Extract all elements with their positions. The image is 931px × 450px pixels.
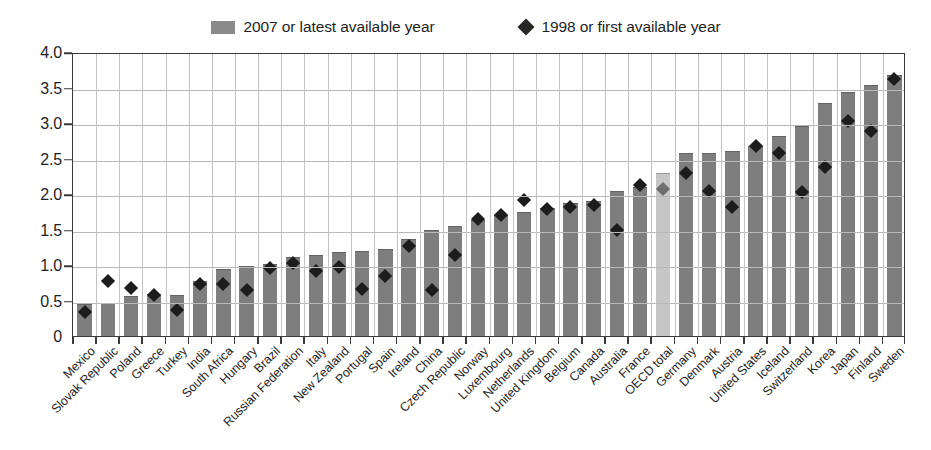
gridline-vertical xyxy=(258,54,259,336)
y-axis-tick-mark xyxy=(64,88,72,90)
gridline-vertical xyxy=(605,54,606,336)
gridline-vertical xyxy=(813,54,814,336)
bar-luxembourg xyxy=(494,215,508,336)
gridline-vertical xyxy=(837,54,838,336)
gridline-vertical xyxy=(721,54,722,336)
gridline-vertical xyxy=(513,54,514,336)
y-axis-tick-mark xyxy=(64,123,72,125)
x-axis-tick-mark xyxy=(604,337,606,344)
gridline-horizontal xyxy=(73,303,904,304)
x-axis-tick-mark xyxy=(257,337,259,344)
gridline-horizontal xyxy=(73,267,904,268)
bar-austria xyxy=(725,151,739,336)
gridline-vertical xyxy=(651,54,652,336)
gridline-vertical xyxy=(397,54,398,336)
gridline-vertical xyxy=(119,54,120,336)
x-axis-tick-mark xyxy=(165,337,167,344)
gridline-vertical xyxy=(490,54,491,336)
x-axis-tick-mark xyxy=(118,337,120,344)
bar-czech-republic xyxy=(448,226,462,336)
bar-hungary xyxy=(239,266,253,336)
x-axis-tick-mark xyxy=(188,337,190,344)
bar-japan xyxy=(841,92,855,336)
gridline-vertical xyxy=(96,54,97,336)
y-axis-tick-mark xyxy=(64,230,72,232)
gridline-vertical xyxy=(767,54,768,336)
x-axis-tick-mark xyxy=(442,337,444,344)
bar-slovak-republic xyxy=(101,303,115,336)
gridline-vertical xyxy=(883,54,884,336)
bar-germany xyxy=(679,153,693,336)
gridline-vertical xyxy=(189,54,190,336)
y-axis-tick-label: 2.5 xyxy=(40,151,62,169)
x-axis-tick-mark xyxy=(650,337,652,344)
x-axis-tick-mark xyxy=(396,337,398,344)
bar-iceland xyxy=(772,136,786,336)
x-axis-tick-mark xyxy=(280,337,282,344)
x-axis-tick-mark xyxy=(766,337,768,344)
bar-spain xyxy=(378,249,392,336)
plot-area xyxy=(72,53,905,337)
y-axis-tick-label: 0 xyxy=(53,328,62,346)
bar-finland xyxy=(864,85,878,336)
x-axis-tick-mark xyxy=(674,337,676,344)
gridline-vertical xyxy=(166,54,167,336)
x-axis-tick-mark xyxy=(72,337,74,344)
legend-entry-diamonds: 1998 or first available year xyxy=(520,18,720,36)
x-axis-tick-mark xyxy=(743,337,745,344)
gridline-vertical xyxy=(235,54,236,336)
x-axis-tick-mark xyxy=(836,337,838,344)
x-axis-tick-mark xyxy=(373,337,375,344)
x-axis-tick-mark xyxy=(211,337,213,344)
chart-legend: 2007 or latest available year 1998 or fi… xyxy=(0,14,931,40)
diamond-icon xyxy=(518,19,535,36)
y-axis-tick-label: 3.5 xyxy=(40,80,62,98)
gridline-vertical xyxy=(304,54,305,336)
y-axis-tick-label: 2.0 xyxy=(40,186,62,204)
data-series-layer xyxy=(73,54,904,336)
x-axis-tick-mark xyxy=(535,337,537,344)
diamond-marker-poland xyxy=(124,281,138,295)
bar-oecd-total xyxy=(656,173,670,336)
gridline-vertical xyxy=(536,54,537,336)
gridline-vertical xyxy=(351,54,352,336)
gridline-vertical xyxy=(744,54,745,336)
bar-swatch-icon xyxy=(211,21,235,34)
gridline-vertical xyxy=(628,54,629,336)
gridline-vertical xyxy=(466,54,467,336)
y-axis-tick-label: 1.0 xyxy=(40,257,62,275)
bar-denmark xyxy=(702,153,716,336)
y-axis-tick-label: 1.5 xyxy=(40,222,62,240)
bar-australia xyxy=(610,191,624,336)
gridline-vertical xyxy=(212,54,213,336)
gridline-horizontal xyxy=(73,232,904,233)
y-axis-tick-mark xyxy=(64,194,72,196)
legend-label-bars: 2007 or latest available year xyxy=(244,18,435,36)
diamond-marker-netherlands xyxy=(517,192,531,206)
gridline-vertical xyxy=(142,54,143,336)
gridline-vertical xyxy=(860,54,861,336)
x-axis-tick-mark xyxy=(234,337,236,344)
y-axis-tick-label: 4.0 xyxy=(40,44,62,62)
x-axis-tick-mark xyxy=(720,337,722,344)
x-axis-tick-mark xyxy=(859,337,861,344)
gridline-vertical xyxy=(790,54,791,336)
x-axis-labels: MexicoSlovak RepublicPolandGreeceTurkeyI… xyxy=(72,344,905,450)
gridline-vertical xyxy=(328,54,329,336)
bar-france xyxy=(633,187,647,336)
x-axis-tick-mark xyxy=(512,337,514,344)
x-axis-tick-mark xyxy=(697,337,699,344)
plot-frame xyxy=(72,53,905,337)
diamond-marker-slovak-republic xyxy=(101,274,115,288)
bar-sweden xyxy=(887,75,901,336)
y-axis-tick-label: 0.5 xyxy=(40,293,62,311)
chart-container: 2007 or latest available year 1998 or fi… xyxy=(0,0,931,450)
gridline-vertical xyxy=(698,54,699,336)
y-axis-tick-label: 3.0 xyxy=(40,115,62,133)
bar-korea xyxy=(818,103,832,336)
gridline-vertical xyxy=(420,54,421,336)
gridline-horizontal xyxy=(73,161,904,162)
gridline-horizontal xyxy=(73,125,904,126)
gridline-vertical xyxy=(443,54,444,336)
bar-canada xyxy=(586,201,600,336)
